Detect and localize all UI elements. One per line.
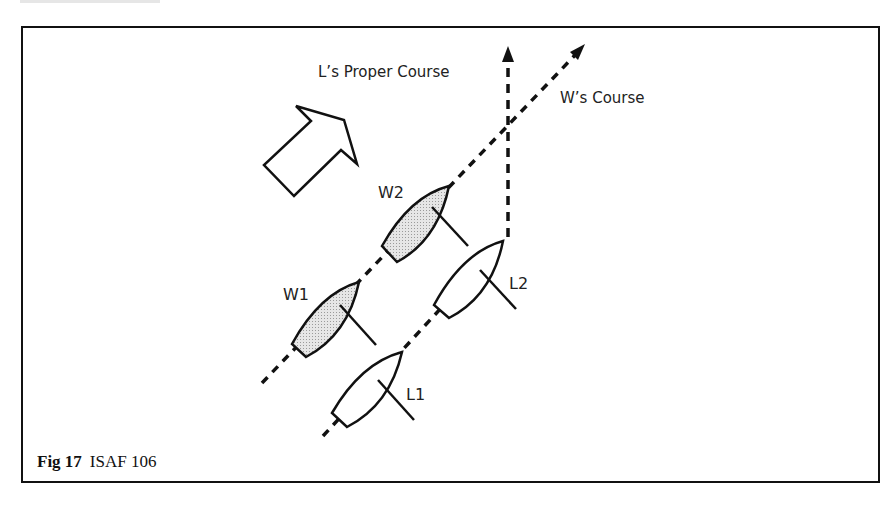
l-proper-course-arrowhead-icon xyxy=(502,46,514,62)
boat-l2 xyxy=(434,241,516,318)
label-l2: L2 xyxy=(509,274,528,293)
label-w-course: W’s Course xyxy=(560,89,645,107)
label-w1: W1 xyxy=(283,285,309,304)
label-l1: L1 xyxy=(406,385,425,404)
label-w2: W2 xyxy=(378,183,404,202)
figure-caption: Fig 17ISAF 106 xyxy=(37,452,156,472)
figure-title: ISAF 106 xyxy=(90,452,157,471)
figure-number: Fig 17 xyxy=(37,452,82,471)
sailing-diagram: L’s Proper Course W’s Course W2 W1 L2 L1 xyxy=(0,0,895,506)
label-l-proper-course: L’s Proper Course xyxy=(318,63,450,81)
w-course-arrowhead-icon xyxy=(570,44,585,60)
wind-arrow-icon xyxy=(264,106,357,196)
boat-l1 xyxy=(332,352,414,427)
